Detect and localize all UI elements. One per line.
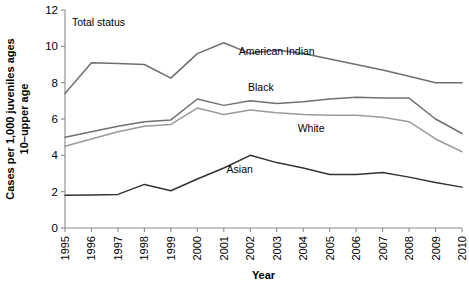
line-chart: 0246810121995199619971998199920002001200… — [0, 0, 469, 285]
x-tick-label: 2006 — [350, 236, 362, 260]
series-line-white — [65, 108, 462, 152]
y-tick-label: 0 — [52, 222, 58, 234]
chart-container: 0246810121995199619971998199920002001200… — [0, 0, 469, 285]
x-tick-label: 1999 — [165, 236, 177, 260]
series-line-asian — [65, 155, 462, 195]
x-tick-label: 1995 — [59, 236, 71, 260]
series-label-white: White — [298, 122, 325, 134]
series-label-asian: Asian — [227, 163, 253, 175]
y-tick-label: 12 — [45, 4, 58, 16]
x-tick-label: 2003 — [271, 236, 283, 260]
y-tick-label: 4 — [52, 149, 59, 161]
x-tick-label: 2009 — [430, 236, 442, 260]
series-line-black — [65, 97, 462, 137]
x-tick-label: 2007 — [377, 236, 389, 260]
x-tick-label: 1997 — [112, 236, 124, 260]
x-tick-label: 2000 — [191, 236, 203, 260]
y-axis-title-line2: 10–upper age — [18, 84, 30, 155]
x-tick-label: 2002 — [244, 236, 256, 260]
y-tick-label: 2 — [52, 186, 58, 198]
x-tick-label: 1998 — [138, 236, 150, 260]
series-label-american-indian: American Indian — [239, 45, 315, 57]
y-tick-label: 10 — [45, 40, 58, 52]
y-axis-title-line1: Cases per 1,000 juveniles ages — [4, 38, 16, 199]
x-tick-label: 2001 — [218, 236, 230, 260]
x-tick-label: 2004 — [297, 236, 309, 260]
x-tick-label: 2010 — [456, 236, 468, 260]
y-tick-label: 6 — [52, 113, 58, 125]
x-tick-label: 1996 — [85, 236, 97, 260]
panel-title: Total status — [72, 16, 125, 28]
x-axis-title: Year — [252, 269, 276, 281]
x-tick-label: 2008 — [403, 236, 415, 260]
y-tick-label: 8 — [52, 77, 58, 89]
x-tick-label: 2005 — [324, 236, 336, 260]
series-label-black: Black — [248, 81, 274, 93]
